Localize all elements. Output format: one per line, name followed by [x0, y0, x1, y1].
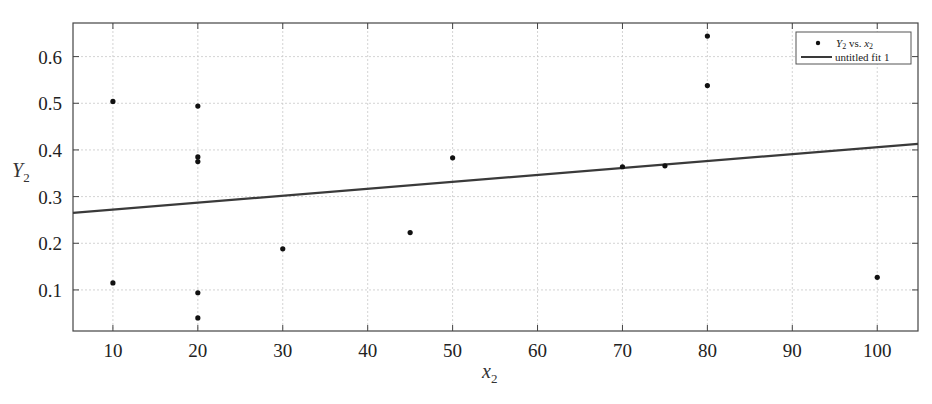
data-point [195, 290, 200, 295]
data-point [280, 246, 285, 251]
y-tick-labels: 0.10.20.30.40.50.6 [38, 47, 62, 301]
data-point [110, 280, 115, 285]
legend: Y2 vs. x2 untitled fit 1 [796, 32, 911, 64]
x-axis-label: x2 [481, 360, 497, 386]
data-point [705, 33, 710, 38]
data-point [110, 99, 115, 104]
x-tick-label: 30 [273, 340, 292, 361]
y-tick-label: 0.3 [38, 187, 62, 208]
y-tick-label: 0.6 [38, 47, 62, 68]
data-point [620, 164, 625, 169]
x-tick-label: 40 [358, 340, 377, 361]
legend-fit-label: untitled fit 1 [835, 51, 889, 63]
x-tick-labels: 102030405060708090100 [103, 340, 891, 361]
x-tick-label: 10 [103, 340, 122, 361]
x-tick-label: 50 [443, 340, 462, 361]
y-tick-label: 0.1 [38, 280, 62, 301]
data-point [875, 275, 880, 280]
data-point [662, 163, 667, 168]
legend-scatter-label: Y2 vs. x2 [836, 37, 873, 51]
data-point [450, 155, 455, 160]
plot-area [73, 23, 918, 331]
y-tick-label: 0.4 [38, 140, 62, 161]
data-point [408, 230, 413, 235]
scatter-chart: 102030405060708090100 0.10.20.30.40.50.6… [0, 0, 932, 404]
y-tick-label: 0.2 [38, 233, 62, 254]
x-tick-label: 60 [528, 340, 547, 361]
x-tick-label: 90 [783, 340, 802, 361]
legend-marker-icon [816, 41, 820, 45]
data-point [195, 315, 200, 320]
data-point [195, 159, 200, 164]
data-point [195, 103, 200, 108]
x-tick-label: 100 [863, 340, 892, 361]
y-tick-label: 0.5 [38, 93, 62, 114]
y-axis-label: Y2 [12, 159, 30, 185]
x-tick-label: 70 [613, 340, 632, 361]
data-point [195, 154, 200, 159]
data-point [705, 83, 710, 88]
x-tick-label: 20 [188, 340, 207, 361]
x-tick-label: 80 [698, 340, 717, 361]
